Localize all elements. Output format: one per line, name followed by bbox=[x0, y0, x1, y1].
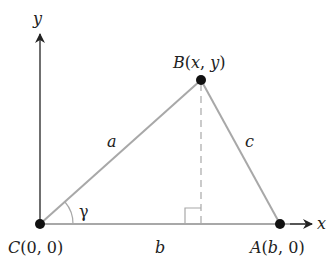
triangle-diagram: y x B(x, y) C(0, 0) A(b, 0) a c b γ bbox=[0, 0, 332, 263]
point-C-label: C(0, 0) bbox=[8, 238, 63, 257]
point-B bbox=[196, 75, 206, 85]
point-A bbox=[275, 219, 285, 229]
side-c-label: c bbox=[245, 132, 254, 151]
side-c bbox=[201, 80, 280, 224]
right-angle-mark bbox=[185, 208, 201, 224]
point-A-label: A(b, 0) bbox=[248, 238, 305, 257]
side-a bbox=[40, 80, 201, 224]
point-B-label: B(x, y) bbox=[172, 53, 226, 72]
x-axis-label: x bbox=[317, 214, 326, 233]
angle-gamma-label: γ bbox=[79, 202, 89, 221]
side-b-label: b bbox=[155, 238, 165, 257]
y-axis-label: y bbox=[32, 9, 43, 28]
angle-arc bbox=[65, 202, 73, 224]
point-C bbox=[35, 219, 45, 229]
side-a-label: a bbox=[107, 132, 117, 151]
